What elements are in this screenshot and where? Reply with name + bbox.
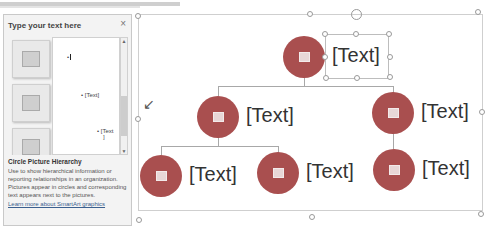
learn-more-link[interactable]: Learn more about SmartArt graphics [8, 200, 128, 208]
connector [218, 86, 219, 96]
node-left-text[interactable]: [Text] [246, 104, 294, 127]
resize-handle-top[interactable] [307, 11, 313, 17]
resize-handle-bl[interactable] [136, 217, 142, 223]
resize-handle-right[interactable] [479, 109, 485, 115]
picture-icon [22, 95, 40, 111]
text-handle[interactable] [354, 75, 360, 81]
text-handle[interactable] [323, 75, 329, 81]
node-right-picture[interactable] [372, 92, 414, 134]
picture-placeholder-1[interactable] [12, 40, 50, 78]
node-left-picture[interactable] [197, 96, 239, 138]
text-handle[interactable] [387, 54, 393, 60]
node-left-child-2-text[interactable]: [Text] [306, 160, 354, 183]
scroll-thumb[interactable] [121, 96, 127, 136]
text-pane-scrollbar[interactable]: ▲ ▼ [120, 37, 128, 155]
pointer-arrow-icon: ↙ [143, 96, 155, 112]
text-handle[interactable] [387, 74, 393, 80]
rotate-handle-icon[interactable] [351, 9, 362, 20]
picture-placeholder-2[interactable] [12, 84, 50, 122]
node-left-child-1-text[interactable]: [Text] [189, 163, 237, 186]
layout-description-text: Use to show hierarchical information or … [8, 167, 128, 199]
resize-handle-tl[interactable] [135, 13, 141, 19]
text-editor[interactable]: • • [Text] • [Text] [52, 37, 120, 155]
connector [393, 133, 394, 149]
text-handle[interactable] [386, 31, 392, 37]
picture-icon [299, 52, 310, 62]
picture-icon [389, 165, 400, 175]
picture-icon [388, 108, 399, 118]
resize-handle-br[interactable] [478, 211, 484, 217]
node-left-child-1-picture[interactable] [140, 155, 182, 197]
picture-icon [156, 171, 167, 181]
text-handle[interactable] [353, 31, 359, 37]
picture-placeholder-3[interactable] [12, 128, 50, 155]
text-pane-title: Type your text here [8, 21, 81, 30]
text-handle[interactable] [322, 54, 328, 60]
node-root-text[interactable]: [Text] [332, 44, 380, 67]
bullet-item-2[interactable]: • [Text] [81, 92, 99, 98]
node-root-picture[interactable] [283, 36, 325, 78]
connector [161, 146, 162, 155]
layout-name: Circle Picture Hierarchy [8, 158, 128, 166]
layout-description: Circle Picture Hierarchy Use to show hie… [8, 158, 128, 208]
picture-icon [273, 168, 284, 178]
resize-handle-tr[interactable] [475, 9, 481, 15]
node-right-child-1-picture[interactable] [373, 149, 415, 191]
node-left-child-2-picture[interactable] [257, 152, 299, 194]
text-handle[interactable] [322, 31, 328, 37]
ribbon-edge-shadow [0, 6, 140, 8]
bullet-item-1[interactable]: • [67, 54, 71, 60]
text-pane-toggle[interactable] [135, 116, 141, 122]
close-icon[interactable]: × [120, 18, 126, 29]
picture-icon [22, 139, 40, 155]
bullet-item-3[interactable]: • [Text] [97, 128, 113, 140]
resize-handle-bottom[interactable] [309, 214, 315, 220]
connector [161, 146, 279, 147]
text-pane: Type your text here × • • [Text] • [Text… [3, 14, 132, 226]
picture-icon [22, 51, 40, 67]
picture-icon [213, 112, 224, 122]
scroll-up-icon[interactable]: ▲ [121, 38, 127, 44]
picture-thumbnails [8, 37, 52, 155]
connector [218, 86, 394, 87]
scroll-down-icon[interactable]: ▼ [121, 148, 127, 154]
node-right-text[interactable]: [Text] [421, 100, 469, 123]
node-right-child-1-text[interactable]: [Text] [422, 157, 470, 180]
